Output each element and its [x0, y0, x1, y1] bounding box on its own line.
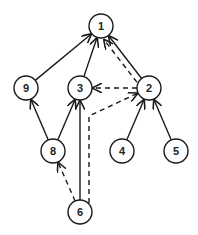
node-label: 1 [98, 20, 104, 32]
node-3: 3 [68, 76, 92, 100]
edges-layer [31, 34, 171, 203]
node-2: 2 [137, 76, 161, 100]
node-label: 2 [146, 82, 152, 94]
edge-3-to-1 [84, 38, 97, 76]
edge-2-to-1-dashed [104, 40, 137, 82]
edge-4-to-2 [127, 100, 144, 140]
node-label: 5 [173, 145, 179, 157]
node-5: 5 [164, 139, 188, 163]
node-6: 6 [68, 200, 92, 224]
node-label: 6 [77, 206, 83, 218]
node-4: 4 [110, 139, 134, 163]
edge-8-to-9 [31, 100, 48, 140]
node-label: 8 [50, 145, 56, 157]
graph-diagram: 19328456 [0, 0, 198, 235]
node-8: 8 [41, 139, 65, 163]
edge-2-to-1 [109, 36, 142, 78]
node-9: 9 [14, 76, 38, 100]
edge-9-to-1 [35, 34, 91, 80]
node-label: 3 [77, 82, 83, 94]
edge-8-to-3 [58, 100, 75, 140]
node-label: 4 [119, 145, 126, 157]
edge-6-to-8-dashed [58, 163, 75, 201]
edge-5-to-2 [154, 100, 171, 140]
node-1: 1 [89, 14, 113, 38]
node-label: 9 [23, 82, 29, 94]
